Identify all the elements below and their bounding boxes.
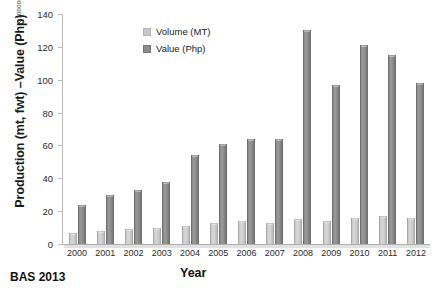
bar-value-2006: [247, 139, 255, 244]
bar-volume-2003: [153, 228, 161, 244]
x-axis-tick-label: 2006: [237, 248, 257, 258]
legend-swatch-value-icon: [143, 45, 151, 53]
y-axis-tick: 0: [58, 244, 63, 245]
bar-value-2007: [275, 139, 283, 244]
bar-volume-2008: [294, 219, 302, 244]
y-axis-tick-label: 100: [37, 74, 53, 85]
bar-group: 2006: [232, 15, 260, 244]
y-axis-tick-label: 0: [48, 239, 53, 250]
bar-value-2002: [134, 190, 142, 244]
bar-value-2001: [106, 195, 114, 244]
legend-item-value: Value (Php): [143, 43, 210, 54]
bar-value-2009: [332, 85, 340, 244]
bar-volume-2001: [97, 231, 105, 244]
bar-group: 2008: [289, 15, 317, 244]
y-axis-tick-label: 140: [37, 9, 53, 20]
bar-group: 2000: [63, 15, 91, 244]
bar-volume-2012: [407, 218, 415, 244]
bar-volume-2006: [238, 221, 246, 244]
bar-value-2003: [162, 182, 170, 244]
chart-legend: Volume (MT) Value (Php): [143, 26, 210, 54]
bar-group: 2012: [402, 15, 430, 244]
bar-volume-2011: [379, 216, 387, 244]
x-axis-tick-label: 2012: [406, 248, 426, 258]
x-axis-tick-label: 2001: [95, 248, 115, 258]
bar-volume-2005: [210, 223, 218, 244]
y-axis-tick-label: 120: [37, 41, 53, 52]
x-axis-tick-label: 2008: [293, 248, 313, 258]
bar-value-2010: [360, 45, 368, 244]
legend-item-volume: Volume (MT): [143, 26, 210, 37]
x-axis-tick-label: 2004: [180, 248, 200, 258]
bar-value-2005: [219, 144, 227, 244]
x-axis-title: Year: [180, 266, 206, 280]
bar-value-2011: [388, 55, 396, 244]
bar-value-2004: [191, 155, 199, 244]
x-axis-tick-label: 2005: [208, 248, 228, 258]
bar-group: 2011: [374, 15, 402, 244]
y-axis-multiplier-note: x 100000: [16, 0, 22, 24]
legend-swatch-volume-icon: [143, 28, 151, 36]
bar-group: 2007: [261, 15, 289, 244]
legend-label-volume: Volume (MT): [156, 26, 210, 37]
y-axis-title: Production (mt, fwt) –Value (Php): [13, 11, 27, 211]
bar-groups: 2000200120022003200420052006200720082009…: [63, 15, 430, 244]
bar-group: 2010: [345, 15, 373, 244]
bar-value-2008: [303, 30, 311, 244]
chart-figure: Production (mt, fwt) –Value (Php) x 1000…: [0, 0, 438, 293]
x-axis-tick-label: 2000: [67, 248, 87, 258]
y-axis-tick-label: 40: [42, 173, 53, 184]
plot-area: 020406080100120140 200020012002200320042…: [62, 15, 430, 245]
x-axis-tick-label: 2007: [265, 248, 285, 258]
bar-volume-2009: [323, 221, 331, 244]
bar-volume-2007: [266, 223, 274, 244]
x-axis-tick-label: 2010: [349, 248, 369, 258]
y-axis-tick-label: 20: [42, 206, 53, 217]
bar-volume-2004: [182, 226, 190, 244]
bar-group: 2009: [317, 15, 345, 244]
x-axis-tick-label: 2009: [321, 248, 341, 258]
bar-value-2012: [416, 83, 424, 244]
source-caption: BAS 2013: [10, 270, 65, 284]
bar-volume-2000: [69, 233, 77, 245]
bar-volume-2002: [125, 229, 133, 244]
y-axis-title-container: Production (mt, fwt) –Value (Php): [0, 0, 22, 252]
y-axis-tick-label: 60: [42, 140, 53, 151]
bar-volume-2010: [351, 218, 359, 244]
y-axis-tick-label: 80: [42, 107, 53, 118]
bar-value-2000: [78, 205, 86, 244]
x-axis-tick-label: 2002: [124, 248, 144, 258]
legend-label-value: Value (Php): [156, 43, 205, 54]
x-axis-tick-label: 2011: [378, 248, 397, 258]
bar-group: 2001: [91, 15, 119, 244]
x-axis-tick-label: 2003: [152, 248, 172, 258]
